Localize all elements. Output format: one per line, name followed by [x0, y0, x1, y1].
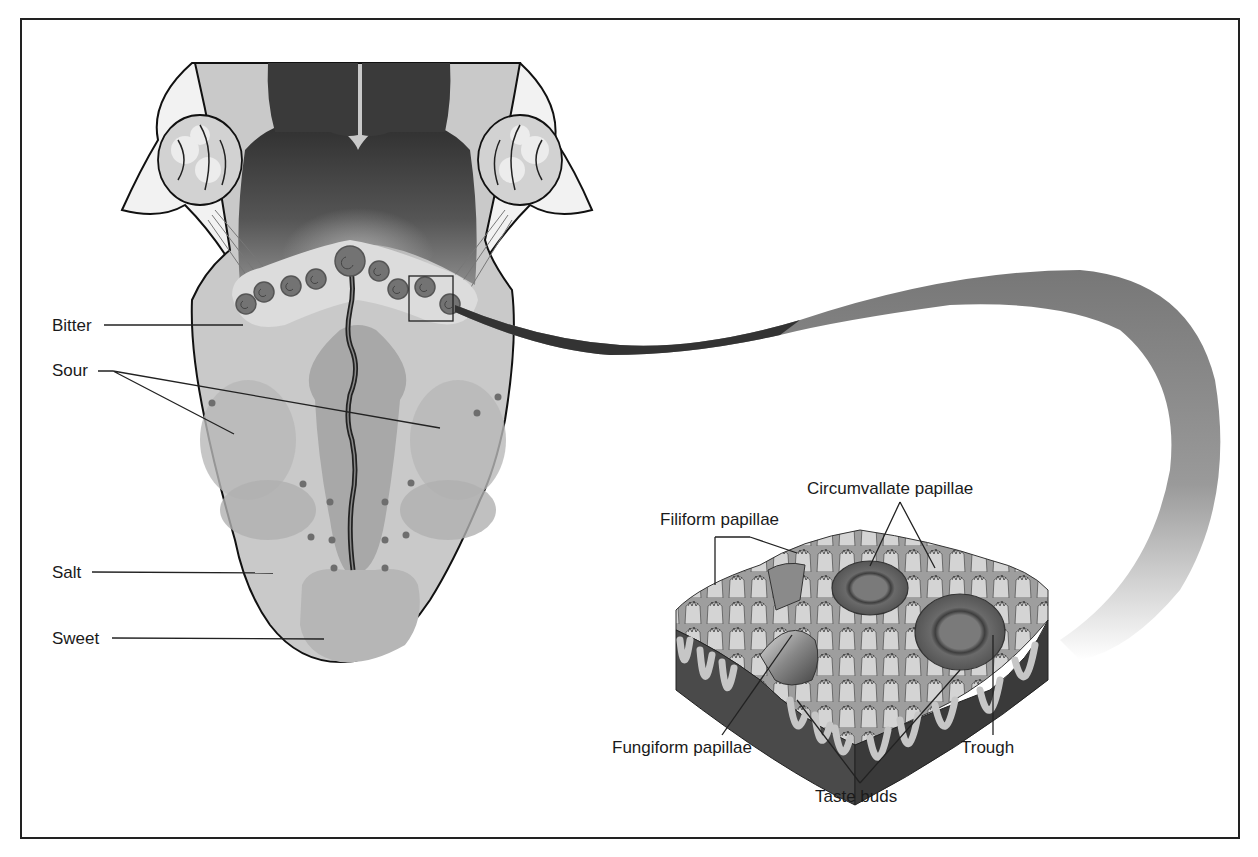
label-salt: Salt [52, 563, 82, 582]
papillae-cross-section [676, 530, 1048, 805]
salt-zone-right [400, 480, 496, 540]
tongue-diagram: Bitter Sour Salt Sweet Circumvallate pap… [0, 0, 1258, 857]
label-taste-buds: Taste buds [815, 787, 897, 806]
circumvallate-papilla-top [832, 561, 908, 615]
label-sour: Sour [52, 361, 88, 380]
label-sweet: Sweet [52, 629, 100, 648]
epiglottis-right [362, 63, 450, 136]
label-bitter: Bitter [52, 316, 92, 335]
label-circumvallate-papillae: Circumvallate papillae [807, 479, 973, 498]
circumvallate-papilla-right [915, 594, 1005, 670]
sweet-zone [300, 569, 420, 662]
label-trough: Trough [961, 738, 1014, 757]
epiglottis-left [268, 63, 358, 136]
label-fungiform-papillae: Fungiform papillae [612, 738, 752, 757]
salt-zone-left [220, 480, 316, 540]
label-filiform-papillae: Filiform papillae [660, 510, 779, 529]
